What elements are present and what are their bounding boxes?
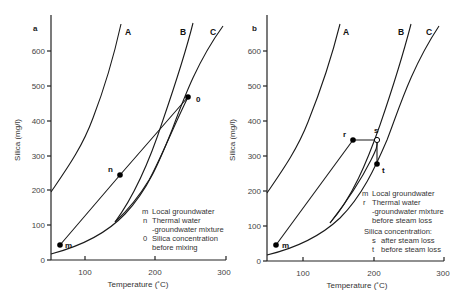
y-axis-title: Silica (mg/l): [228, 119, 237, 161]
label-m: m: [282, 241, 289, 250]
legend-text: before steam loss: [372, 216, 432, 225]
curve-label-b: B: [398, 27, 404, 37]
legend-b: m Local groundwater r Thermal water -gro…: [362, 189, 444, 254]
panel-a-label: a: [33, 24, 38, 33]
label-0: 0: [196, 95, 201, 104]
legend-text: Silica concentration:: [364, 227, 432, 236]
label-t: t: [382, 166, 385, 175]
x-axis-title: Temperature (˚C): [327, 281, 388, 290]
label-m: m: [65, 241, 72, 250]
y-tick-label: 0: [41, 256, 46, 265]
label-s: s: [374, 126, 379, 135]
x-tick-label: 100: [296, 269, 310, 278]
y-tick-label: 300: [248, 152, 262, 161]
y-tick-label: 600: [32, 47, 46, 56]
curve-b: [115, 23, 193, 222]
point-r: [350, 137, 356, 143]
curve-label-a: A: [343, 27, 349, 37]
point-m: [273, 242, 279, 248]
y-tick-label: 300: [32, 152, 46, 161]
legend-text: after steam loss: [381, 236, 435, 245]
x-tick-label: 100: [78, 268, 92, 277]
panel-b-label: b: [252, 24, 257, 33]
legend-key: r: [363, 198, 366, 207]
legend-key: t: [372, 245, 375, 254]
legend-text: before mixing: [152, 243, 198, 252]
legend-key: 0: [143, 234, 147, 243]
x-ticks: 100 200 300: [296, 257, 450, 278]
y-tick-label: 600: [248, 47, 262, 56]
y-tick-label: 500: [32, 82, 46, 91]
y-tick-label: 200: [32, 186, 46, 195]
y-axis-title: Silica (mg/l): [13, 119, 22, 161]
legend-text: Silica concentration: [152, 234, 218, 243]
legend-text: -groundwater mixture: [152, 225, 224, 234]
y-tick-label: 0: [257, 257, 262, 266]
label-r: r: [343, 130, 346, 139]
legend-key: n: [143, 216, 147, 225]
legend-text: -groundwater mixture: [372, 207, 444, 216]
legend-text: before steam loss: [381, 245, 441, 254]
x-tick-label: 200: [367, 269, 381, 278]
curve-label-c: C: [426, 27, 432, 37]
y-tick-label: 500: [248, 82, 262, 91]
y-tick-label: 400: [32, 117, 46, 126]
point-t: [374, 161, 380, 167]
curve-label-b: B: [180, 27, 186, 37]
legend-key: m: [142, 207, 148, 216]
legend-a: m Local groundwater n Thermal water -gro…: [142, 207, 224, 252]
label-n: n: [108, 165, 113, 174]
point-m: [57, 242, 63, 248]
legend-text: Local groundwater: [372, 189, 435, 198]
x-axis-title: Temperature (˚C): [108, 280, 169, 289]
point-n: [117, 172, 123, 178]
legend-text: Local groundwater: [152, 207, 215, 216]
legend-key: m: [362, 189, 368, 198]
curve-label-c: C: [210, 27, 216, 37]
y-tick-label: 200: [248, 187, 262, 196]
curve-label-a: A: [125, 27, 131, 37]
y-ticks: 0 100 200 300 400 500 600: [248, 47, 267, 266]
panel-b: b 0 100 200 300 400 500 600 100 200 300: [228, 15, 450, 290]
y-ticks: 0 100 200 300 400 500 600: [32, 47, 51, 265]
x-ticks: 100 200 300: [78, 256, 231, 277]
mixing-line: [276, 140, 353, 245]
legend-key: s: [372, 236, 376, 245]
legend-text: Thermal water: [152, 216, 201, 225]
x-tick-label: 200: [148, 268, 162, 277]
y-tick-label: 100: [32, 221, 46, 230]
curve-a: [267, 24, 340, 193]
x-tick-label: 300: [217, 268, 231, 277]
legend-text: Thermal water: [372, 198, 421, 207]
point-s: [374, 137, 379, 142]
panel-a: a 0 100 200 300 400 500 600 100 2: [13, 15, 231, 289]
y-tick-label: 100: [248, 222, 262, 231]
point-0: [185, 94, 191, 100]
figure: a 0 100 200 300 400 500 600 100 2: [0, 0, 465, 304]
y-tick-label: 400: [248, 117, 262, 126]
x-tick-label: 300: [436, 269, 450, 278]
